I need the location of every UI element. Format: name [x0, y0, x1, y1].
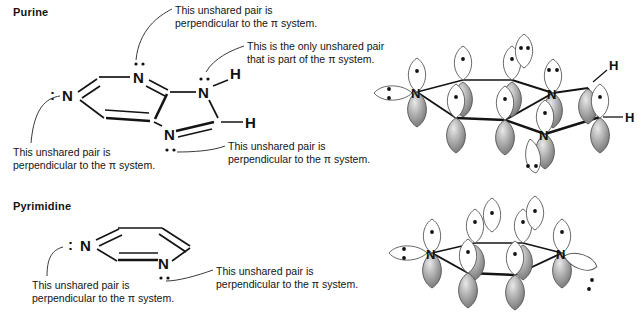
- purine-atom-h-on-n9: H: [230, 65, 241, 82]
- purine-orbital-atom-h-right: H: [625, 110, 634, 125]
- electron-dot: [503, 97, 507, 101]
- sp2-lone-pair-lobe: [374, 86, 412, 100]
- purine-n9-lone-pair-dots: [199, 77, 209, 80]
- leader-pyrimidine-right: [166, 270, 213, 281]
- diagram-canvas: Purine Pyrimidine This unshared pair is …: [0, 0, 641, 327]
- pyrimidine-n3-lone-pair-dots: [159, 276, 169, 279]
- electron-dot: [430, 230, 434, 234]
- purine-atom-n3: N: [133, 69, 144, 86]
- electron-dot: [533, 209, 537, 213]
- purine-atom-h-on-c8: H: [245, 114, 256, 131]
- p-orbital-lower-lobe: [591, 118, 610, 153]
- purine-atom-n1: N: [62, 87, 73, 104]
- p-orbital-lower-lobe: [496, 120, 515, 155]
- purine-orbital-diagram: N N N H H: [374, 34, 634, 173]
- purine-skeletal-structure: : N N N H N H: [50, 62, 256, 151]
- electron-dot: [547, 68, 551, 72]
- electron-dot: [387, 96, 391, 100]
- leader-purine-left: [31, 96, 60, 143]
- pyrimidine-orbital-atom-n-left: N: [426, 247, 435, 262]
- pyrimidine-orbital-atom-n-right: N: [556, 247, 565, 262]
- purine-orbital-atom-n-left: N: [411, 86, 420, 101]
- leader-purine-top: [136, 9, 172, 60]
- pyrimidine-orbital-framework: [432, 243, 562, 275]
- electron-dot: [402, 256, 406, 260]
- p-orbital-lower-lobe: [447, 118, 466, 153]
- electron-dot: [590, 278, 594, 282]
- pyrimidine-ring-bonds: [96, 228, 190, 261]
- leader-pyrimidine-left: [47, 247, 63, 276]
- structure-artwork: : N N N H N H: [0, 0, 641, 327]
- electron-dot: [519, 46, 523, 50]
- electron-dot: [534, 164, 538, 168]
- p-orbital-upper-lobe: [466, 209, 483, 243]
- leader-purine-bottom: [177, 146, 225, 152]
- electron-dot: [473, 220, 477, 224]
- purine-n1-lone-pair-colon: :: [50, 86, 55, 103]
- p-orbital-lower-lobe: [506, 275, 525, 310]
- purine-orbital-atom-n-bottom: N: [539, 128, 548, 143]
- electron-dot: [598, 95, 602, 99]
- electron-dot: [454, 95, 458, 99]
- pyrimidine-orbital-diagram: N N: [389, 196, 599, 310]
- p-orbital-upper-lobe: [454, 46, 471, 80]
- pyrimidine-n1-lone-pair-colon: :: [68, 236, 73, 253]
- electron-dot: [387, 87, 391, 91]
- pyrimidine-orbital-upper-lobes: [423, 196, 570, 275]
- electron-dot: [415, 69, 419, 73]
- sp2-lone-pair-lobe: [389, 246, 427, 260]
- pyrimidine-skeletal-structure: : N N: [68, 228, 190, 280]
- electron-dot: [466, 250, 470, 254]
- pyrimidine-atom-n1: N: [80, 237, 91, 254]
- electron-dot: [526, 46, 530, 50]
- electron-dot: [587, 287, 591, 291]
- purine-orbital-atom-n-right: N: [547, 87, 556, 102]
- electron-dot: [555, 68, 559, 72]
- purine-atom-n9: N: [198, 84, 209, 101]
- purine-atom-n7: N: [164, 126, 175, 143]
- purine-pyrimidine-ring-bonds: [78, 77, 168, 121]
- p-orbital-upper-lobe: [483, 198, 500, 232]
- electron-dot: [521, 220, 525, 224]
- purine-n7-lone-pair-dots: [165, 148, 175, 151]
- purine-orbital-atom-h-top: H: [609, 58, 618, 73]
- purine-n3-lone-pair-dots: [134, 62, 144, 65]
- electron-dot: [402, 247, 406, 251]
- pyrimidine-atom-n3: N: [158, 255, 169, 272]
- electron-dot: [560, 230, 564, 234]
- electron-dot: [526, 164, 530, 168]
- electron-dot: [461, 57, 465, 61]
- electron-dot: [510, 57, 514, 61]
- electron-dot: [543, 111, 547, 115]
- electron-dot: [490, 211, 494, 215]
- electron-dot: [513, 252, 517, 256]
- pyrimidine-orbital-lower-lobes: [423, 245, 572, 310]
